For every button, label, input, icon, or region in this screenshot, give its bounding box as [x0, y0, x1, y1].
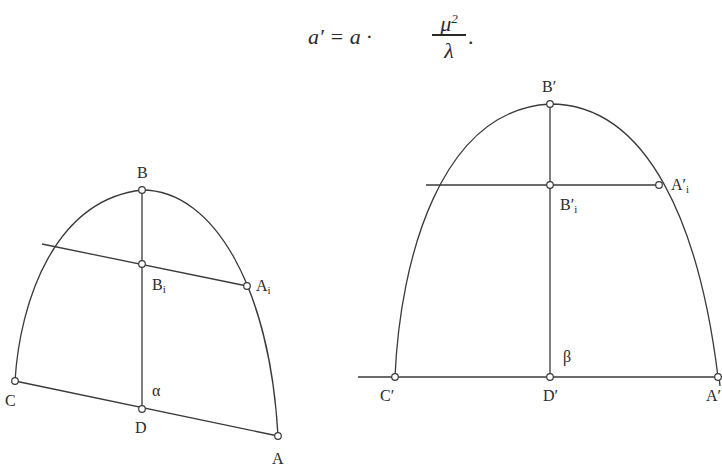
point-B-prime [547, 101, 554, 108]
label-Ai-prime-main: A′ [671, 176, 686, 193]
label-D: D [135, 420, 147, 436]
label-Bi-prime: B′i [560, 197, 577, 217]
point-Ai [244, 283, 251, 290]
point-A [275, 433, 282, 440]
point-C [12, 378, 19, 385]
label-A: A [272, 451, 284, 467]
point-A-prime [715, 374, 722, 381]
label-alpha: α [152, 383, 160, 399]
label-Ai-main: A [256, 277, 268, 294]
label-C: C [5, 393, 16, 409]
label-Ai-sub: i [268, 284, 271, 296]
point-C-prime [392, 374, 399, 381]
label-Bi-main: B [152, 276, 163, 293]
point-D [139, 406, 146, 413]
label-Bi: Bi [152, 277, 166, 297]
label-Bi-prime-sub: i [574, 203, 577, 215]
label-B: B [137, 165, 148, 181]
label-A-prime: A′ [706, 388, 721, 404]
label-D-prime: D′ [543, 388, 558, 404]
right-figure [358, 101, 722, 386]
point-Bi [139, 261, 146, 268]
left-figure [12, 187, 282, 440]
label-Ai-prime: A′i [671, 177, 689, 197]
label-Ai: Ai [256, 278, 271, 298]
geometry-diagram [0, 0, 722, 470]
label-B-prime: B′ [542, 79, 556, 95]
point-B [139, 187, 146, 194]
label-beta: β [563, 349, 571, 365]
point-Ai-prime [656, 182, 663, 189]
label-Ai-prime-sub: i [686, 183, 689, 195]
label-Bi-prime-main: B′ [560, 196, 574, 213]
point-D-prime [547, 374, 554, 381]
label-C-prime: C′ [380, 388, 394, 404]
right-arc [395, 104, 718, 377]
label-Bi-sub: i [163, 283, 166, 295]
point-Bi-prime [547, 182, 554, 189]
left-arc [15, 190, 278, 436]
